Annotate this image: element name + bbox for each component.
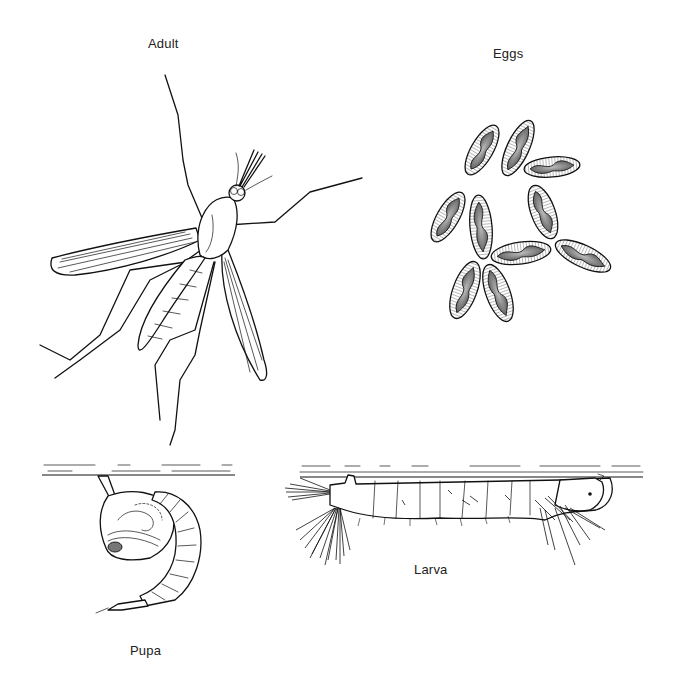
larva-illustration xyxy=(0,0,675,689)
